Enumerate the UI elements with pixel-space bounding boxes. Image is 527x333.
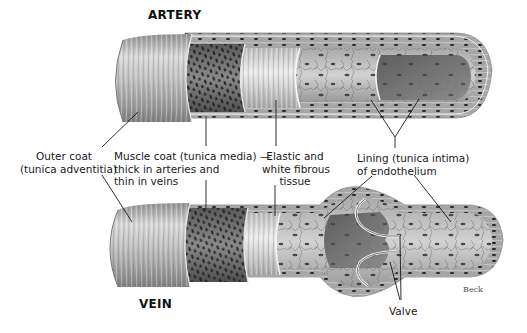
blood-vessel-diagram: ARTERY VEIN Outer coat (tunica adventiti…: [0, 0, 527, 333]
muscle-coat-label: Muscle coat (tunica media) — thick in ar…: [114, 150, 270, 188]
vein-title: VEIN: [139, 297, 172, 311]
artist-signature: Beck: [463, 285, 483, 294]
valve-label: Valve: [389, 305, 417, 318]
artery-title: ARTERY: [148, 8, 201, 22]
artery-illustration: [116, 33, 493, 122]
elastic-tissue-label: Elastic and white fibrous tissue: [262, 150, 328, 188]
outer-coat-label: Outer coat (tunica adventitia): [20, 150, 108, 175]
lining-label: Lining (tunica intima) of endothelium: [357, 152, 469, 177]
vein-illustration: [110, 187, 503, 297]
